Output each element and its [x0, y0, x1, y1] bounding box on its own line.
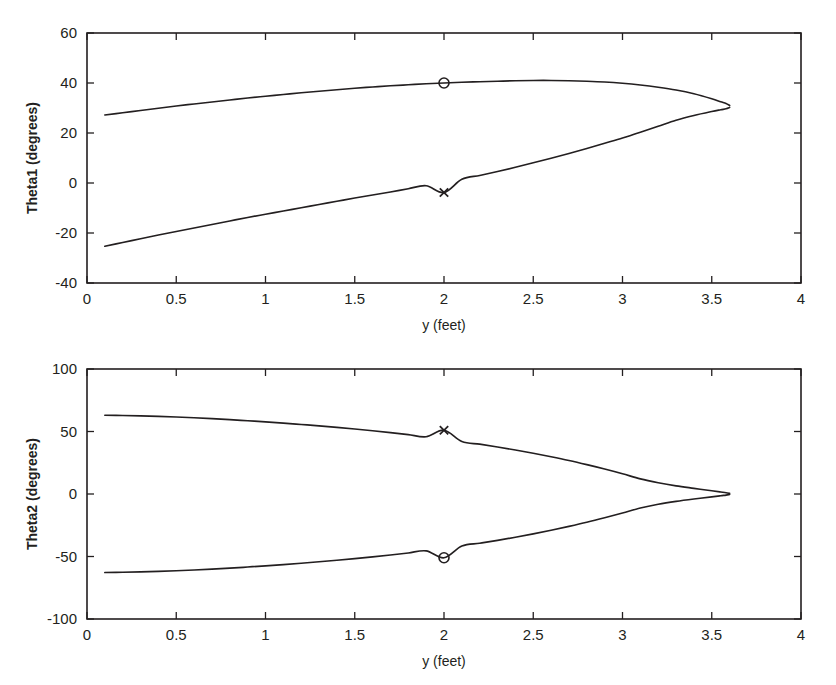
- y-axis-title: Theta1 (degrees): [24, 102, 40, 214]
- x-axis-title: y (feet): [422, 653, 466, 669]
- plot-frame: [87, 33, 801, 283]
- x-tick-label: 1.5: [344, 290, 365, 307]
- y-tick-label: -100: [47, 610, 77, 627]
- x-tick-label: 2.5: [523, 626, 544, 643]
- y-tick-label: -20: [55, 224, 77, 241]
- y-tick-label: 100: [52, 360, 77, 377]
- y-tick-label: 0: [69, 174, 77, 191]
- x-tick-label: 2.5: [523, 290, 544, 307]
- x-tick-label: 1: [261, 626, 269, 643]
- y-tick-label: -40: [55, 274, 77, 291]
- x-tick-label: 3.5: [701, 290, 722, 307]
- x-tick-label: 3.5: [701, 626, 722, 643]
- x-axis-title: y (feet): [422, 317, 466, 333]
- data-curve: [105, 495, 730, 573]
- y-tick-label: 20: [60, 124, 77, 141]
- x-tick-label: 1.5: [344, 626, 365, 643]
- figure-page: 00.511.522.533.54-40-200204060y (feet)Th…: [0, 0, 836, 685]
- data-curve: [105, 415, 730, 493]
- y-tick-label: 60: [60, 24, 77, 41]
- y-tick-label: -50: [55, 548, 77, 565]
- x-tick-label: 4: [797, 626, 805, 643]
- x-tick-label: 3: [618, 626, 626, 643]
- x-tick-label: 0: [83, 626, 91, 643]
- chart-theta2: 00.511.522.533.54-100-50050100y (feet)Th…: [0, 343, 836, 685]
- x-tick-label: 4: [797, 290, 805, 307]
- x-tick-label: 0.5: [166, 626, 187, 643]
- plot-frame: [87, 369, 801, 619]
- y-tick-label: 50: [60, 423, 77, 440]
- x-tick-label: 0.5: [166, 290, 187, 307]
- y-tick-label: 0: [69, 485, 77, 502]
- data-curve: [105, 108, 730, 247]
- theta1-svg: 00.511.522.533.54-40-200204060y (feet)Th…: [0, 0, 836, 343]
- chart-theta1: 00.511.522.533.54-40-200204060y (feet)Th…: [0, 0, 836, 343]
- x-tick-label: 3: [618, 290, 626, 307]
- x-tick-label: 1: [261, 290, 269, 307]
- data-curve: [105, 80, 730, 115]
- theta2-svg: 00.511.522.533.54-100-50050100y (feet)Th…: [0, 343, 836, 685]
- x-tick-label: 2: [440, 626, 448, 643]
- x-tick-label: 2: [440, 290, 448, 307]
- y-tick-label: 40: [60, 74, 77, 91]
- x-tick-label: 0: [83, 290, 91, 307]
- y-axis-title: Theta2 (degrees): [24, 438, 40, 550]
